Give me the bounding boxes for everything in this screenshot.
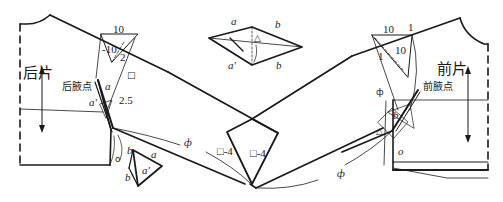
back-circle-marker: o xyxy=(115,155,121,164)
front-dart-top-measure: 10 xyxy=(383,24,394,35)
front-dart-corner-measure: 1 xyxy=(408,22,414,33)
front-circle-marker: o xyxy=(398,146,404,157)
center-gusset xyxy=(5,0,383,188)
back-armpit-point-label: 后腋点 xyxy=(62,82,92,92)
back-dart-slope-measure: 2 xyxy=(120,52,126,63)
front-phi-marker: ф xyxy=(376,88,384,97)
diamond-b-bottom: b xyxy=(276,60,282,71)
small-triangle-b: b xyxy=(127,145,133,156)
front-triangle-marker: △ xyxy=(376,127,383,136)
back-armhole-construction xyxy=(95,80,245,184)
back-offset-measure: 2.5 xyxy=(119,95,133,106)
small-triangle-a-prime: a' xyxy=(142,165,150,176)
diamond-b-top: b xyxy=(275,19,281,30)
front-dart-slope-measure: 1 xyxy=(378,51,384,62)
back-dart-inner-measure: -10 xyxy=(102,44,117,55)
left-phi-label: ф xyxy=(184,137,192,148)
right-phi-label: ф xyxy=(337,168,345,179)
small-triangle-a: a xyxy=(151,149,157,160)
diamond-a-top: a xyxy=(231,16,237,27)
front-b-marker: b xyxy=(393,110,399,121)
gusset-left-label: □-4 xyxy=(217,146,233,157)
gusset-right-label: □-4 xyxy=(250,148,266,159)
front-dart-inner-measure: 10 xyxy=(395,45,406,56)
back-a-prime-marker: a' xyxy=(89,97,97,108)
front-armpit-point-label: 前腋点 xyxy=(423,82,453,92)
small-triangle-b-prime: b' xyxy=(125,172,133,183)
pattern-diagram xyxy=(0,0,503,202)
diamond-a-bottom: a' xyxy=(228,60,236,71)
back-a-marker: a xyxy=(105,81,111,92)
diamond-triangle-marker: △ xyxy=(254,34,261,43)
back-square-marker: □ xyxy=(127,71,136,80)
back-dart-top-measure: 10 xyxy=(113,24,124,35)
back-piece-title: 后片 xyxy=(23,66,53,81)
front-piece-title: 前片 xyxy=(437,62,467,77)
